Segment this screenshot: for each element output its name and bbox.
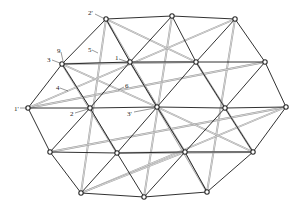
joint-node [205,190,209,194]
dark-strut [265,62,286,107]
light-strut-core [81,152,185,193]
light-strut-core [28,62,265,108]
dark-strut [62,19,106,64]
joint-node [79,191,83,195]
callout-label: 5 [88,46,92,54]
callout-label: 1 [115,54,119,62]
dark-strut [144,192,207,197]
dark-strut [185,108,225,152]
dark-strut [172,16,196,62]
leader-line [119,59,128,62]
joint-node [60,62,64,66]
leader-line [52,60,60,63]
dark-strut [50,152,117,153]
leader-line [95,14,105,19]
callout-label: 3' [127,110,132,118]
callout-label: 4 [56,84,60,92]
joint-node [251,150,255,154]
joint-node [128,60,132,64]
dark-strut [196,62,225,108]
leader-line [92,50,98,53]
callout-label: 6 [125,82,129,90]
dark-strut [90,107,157,108]
leader-line [60,88,68,91]
callout-label: 9 [57,47,61,55]
callout-label: 2 [70,110,74,118]
joint-node [142,195,146,199]
geodesic-truss-diagram: 2'9351461'23' [0,0,303,211]
joint-node [115,151,119,155]
leader-line [134,108,155,112]
dark-strut [81,193,144,197]
dark-strut [172,16,235,19]
dark-strut [185,152,207,192]
joint-node [233,17,237,21]
dark-strut [235,19,265,62]
joint-node [183,150,187,154]
dark-strut [117,153,144,197]
dark-strut [157,107,225,108]
dark-strut [207,152,253,192]
callout-label: 2' [88,9,93,17]
leader-line [61,52,63,61]
joint-node [155,105,159,109]
joint-node [284,105,288,109]
joint-node [194,60,198,64]
callout-label: 1' [14,105,19,113]
joint-node [48,150,52,154]
callout-label: 3 [47,56,51,64]
dark-strut [28,108,50,152]
dark-strut [90,108,117,153]
light-strut-core [50,107,286,152]
dark-strut [157,62,196,107]
light-strut-core [81,19,106,193]
joint-node [88,106,92,110]
dark-strut [106,16,172,19]
joint-node [223,106,227,110]
truss-drawing: 2'9351461'23' [0,0,303,211]
joint-node [170,14,174,18]
joint-node [263,60,267,64]
dark-strut [50,152,81,193]
